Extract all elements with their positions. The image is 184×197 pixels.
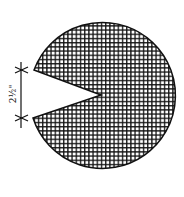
- notched-circle-diagram: [0, 0, 184, 197]
- dimension-label: 2½": [3, 84, 23, 104]
- notched-circle: [33, 22, 175, 168]
